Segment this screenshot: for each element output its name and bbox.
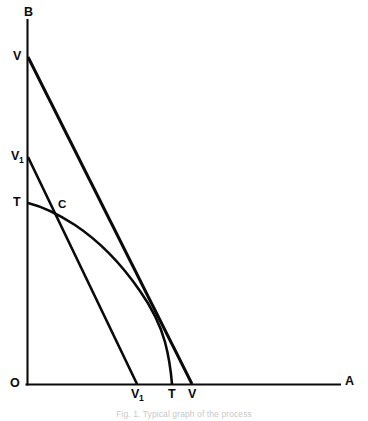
y-tick-label-v1: V1 — [11, 150, 24, 163]
axis-label-a: A — [345, 375, 354, 388]
figure-caption: Fig. 1. Typical graph of the process — [0, 409, 368, 421]
curve-t-adiabat — [28, 203, 172, 384]
x-tick-label-v1-sub: 1 — [139, 393, 144, 403]
y-tick-label-v: V — [13, 50, 22, 63]
y-tick-label-t: T — [13, 196, 21, 209]
point-label-c: C — [58, 199, 67, 211]
figure-container: B V V1 T O A V1 T V C Fig. 1. Typical gr… — [0, 0, 368, 421]
line-v1-isotherm — [28, 157, 137, 384]
x-tick-label-v: V — [188, 388, 197, 401]
y-tick-label-v1-sub: 1 — [19, 155, 24, 165]
axis-label-origin: O — [10, 377, 20, 390]
line-v-isotherm — [28, 57, 192, 384]
diagram-canvas — [0, 0, 368, 421]
x-tick-label-v1: V1 — [131, 388, 144, 401]
x-tick-label-t: T — [168, 388, 176, 401]
axis-label-b: B — [24, 6, 33, 19]
